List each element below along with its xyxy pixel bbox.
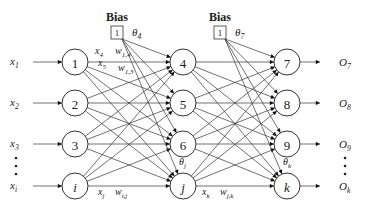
neuron-label: 2 xyxy=(72,97,79,112)
output-label: O8 xyxy=(339,97,351,112)
bias-edge xyxy=(225,39,275,57)
bias-edge xyxy=(225,39,280,133)
ellipsis-dot xyxy=(344,173,347,176)
labels: x1x2x3xi1Biasθ41Biasθ7O7O8O9Ok123i456j78… xyxy=(9,10,352,200)
theta-label: θj xyxy=(179,156,186,170)
neuron-label: 5 xyxy=(180,97,187,112)
neuron-label: 7 xyxy=(284,56,291,71)
output-label: O9 xyxy=(339,138,351,153)
bias-title: Bias xyxy=(106,10,128,24)
weight-label: xj xyxy=(97,186,104,200)
bias-title: Bias xyxy=(209,10,231,24)
theta-label: θ4 xyxy=(132,26,141,41)
bias-edge xyxy=(225,39,282,174)
ellipsis-dot xyxy=(15,173,18,176)
theta-label: θk xyxy=(283,156,292,170)
ellipsis-dot xyxy=(15,157,18,160)
weight-label: w1,3 xyxy=(118,62,134,76)
neuron-label: 6 xyxy=(180,138,187,153)
weight-label: x5 xyxy=(97,57,106,71)
neuron-label: 8 xyxy=(284,97,291,112)
neuron-label: 4 xyxy=(180,56,187,71)
ellipsis-dot xyxy=(344,157,347,160)
input-label: xi xyxy=(9,179,17,194)
neural-network-diagram: x1x2x3xi1Biasθ41Biasθ7O7O8O9Ok123i456j78… xyxy=(0,0,365,210)
neuron-label: 9 xyxy=(284,138,291,153)
weight-label: w1,4 xyxy=(115,45,131,59)
theta-label: θ7 xyxy=(235,26,245,41)
weight-label: wi,j xyxy=(115,186,127,200)
input-label: x2 xyxy=(9,96,19,111)
bias-edge xyxy=(122,39,174,94)
ellipsis-dot xyxy=(344,165,347,168)
bias-value: 1 xyxy=(218,28,223,38)
weight-label: xk xyxy=(201,186,210,200)
neuron-label: i xyxy=(73,180,77,195)
input-label: x3 xyxy=(9,137,19,152)
bias-edge xyxy=(225,39,278,94)
neuron-label: k xyxy=(284,180,290,195)
weight-label: wj,k xyxy=(220,186,234,200)
output-label: Ok xyxy=(339,180,351,195)
output-label: O7 xyxy=(339,56,352,71)
neuron-label: 3 xyxy=(72,138,79,153)
input-label: x1 xyxy=(9,55,19,70)
bias-value: 1 xyxy=(115,28,120,38)
ellipsis-dot xyxy=(15,165,18,168)
neuron-label: 1 xyxy=(72,56,79,71)
bias-edge xyxy=(122,39,178,174)
